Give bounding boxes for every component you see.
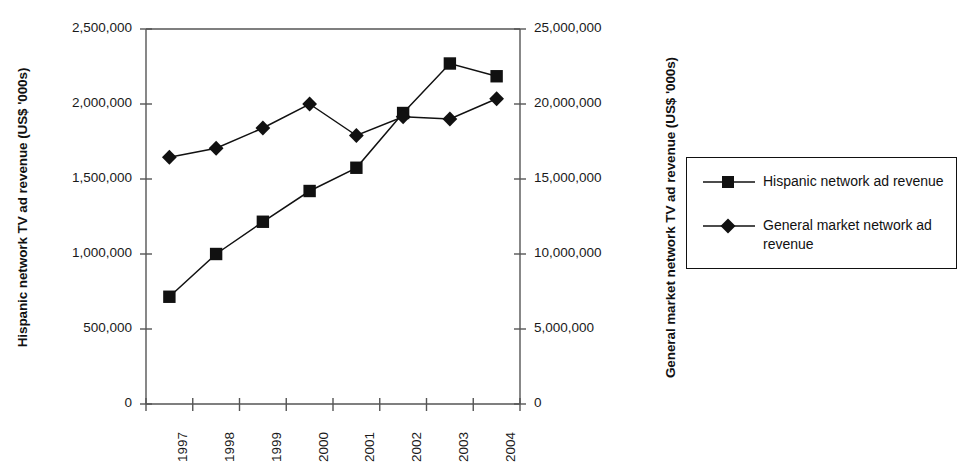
data-point-square: [303, 185, 315, 197]
legend-square-marker-icon: [701, 173, 757, 191]
data-point-diamond: [349, 128, 364, 143]
data-point-diamond: [162, 150, 177, 165]
data-point-diamond: [255, 121, 270, 136]
chart-figure: Hispanic network TV ad revenue (US$ '000…: [0, 0, 967, 464]
data-point-diamond: [209, 141, 224, 156]
data-point-diamond: [302, 97, 317, 112]
data-point-diamond: [442, 112, 457, 127]
legend-label-general-market: General market network ad revenue: [763, 216, 947, 254]
data-point-diamond: [489, 91, 504, 106]
data-point-square: [490, 70, 502, 82]
legend-label-hispanic: Hispanic network ad revenue: [763, 172, 944, 191]
series-general-market: [162, 91, 504, 164]
data-point-square: [257, 216, 269, 228]
legend-entry-hispanic: Hispanic network ad revenue: [701, 172, 947, 191]
legend-diamond-marker-icon: [701, 217, 757, 235]
legend-entry-general-market: General market network ad revenue: [701, 216, 947, 254]
series-hispanic: [163, 57, 503, 303]
data-point-square: [163, 291, 175, 303]
data-series-layer: [162, 57, 504, 303]
legend: Hispanic network ad revenue General mark…: [686, 157, 957, 269]
data-point-square: [210, 248, 222, 260]
data-point-square: [444, 57, 456, 69]
axis-lines: [140, 29, 526, 411]
data-point-square: [350, 162, 362, 174]
